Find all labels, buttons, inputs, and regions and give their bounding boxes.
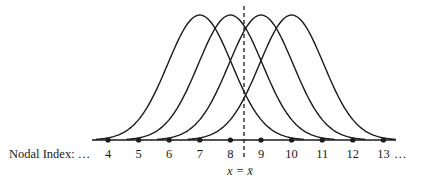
marker-label-x: x = (226, 164, 247, 178)
node-index-label: 10 (285, 147, 298, 161)
gaussian-basis-curves (96, 15, 396, 139)
axis-label: Nodal Index: … (9, 147, 90, 161)
node-dot (136, 137, 141, 142)
node-dot (197, 137, 202, 142)
basis-function-diagram: 45678910111213 Nodal Index: … … x = x̄ (0, 0, 421, 186)
node-dot (105, 137, 110, 142)
node-dot (289, 137, 294, 142)
node-dot (381, 137, 386, 142)
node-index-label: 6 (166, 147, 172, 161)
node-index-label: 12 (347, 147, 360, 161)
marker-label-xbar: x̄ (246, 164, 253, 178)
node-dot (167, 137, 172, 142)
node-dot (228, 137, 233, 142)
node-index-label: 8 (227, 147, 233, 161)
node-dot (320, 137, 325, 142)
node-index-label: 5 (135, 147, 141, 161)
node-index-label: 7 (197, 147, 203, 161)
node-index-label: 11 (316, 147, 328, 161)
marker-label: x = x̄ (226, 164, 253, 178)
node-index-label: 9 (258, 147, 264, 161)
trailing-ellipsis: … (394, 147, 407, 161)
node-dot (350, 137, 355, 142)
node-index-label: 4 (105, 147, 112, 161)
node-index-labels: 45678910111213 (105, 147, 390, 161)
node-dot (258, 137, 263, 142)
node-index-label: 13 (377, 147, 390, 161)
